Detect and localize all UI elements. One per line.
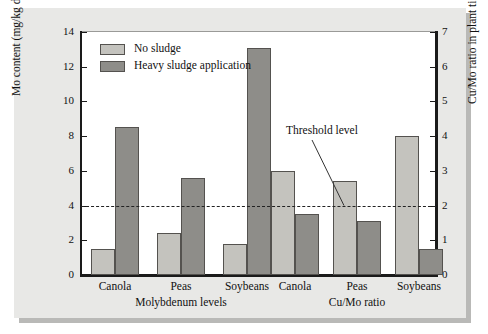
legend-item-heavy-sludge: Heavy sludge application — [100, 59, 251, 72]
left-tick-label: 4 — [50, 200, 74, 211]
left-tick-label: 12 — [50, 61, 74, 72]
legend-label-heavy-sludge: Heavy sludge application — [134, 59, 251, 72]
legend: No sludge Heavy sludge application — [100, 42, 251, 76]
left-tick-label: 0 — [50, 269, 74, 280]
left-tick-label: 8 — [50, 130, 74, 141]
legend-label-no-sludge: No sludge — [134, 42, 181, 55]
legend-swatch-light-icon — [100, 44, 125, 55]
threshold-line — [81, 206, 436, 207]
bar-cu-mo-ratio-canola-no-sludge — [271, 171, 295, 275]
left-tick-label: 10 — [50, 95, 74, 106]
bar-molybdenum-levels-canola-heavy-sludge — [115, 127, 139, 275]
right-tick-label: 6 — [442, 61, 464, 72]
bar-molybdenum-levels-peas-heavy-sludge — [181, 178, 205, 275]
left-tick-label: 2 — [50, 234, 74, 245]
legend-item-no-sludge: No sludge — [100, 42, 251, 55]
bar-molybdenum-levels-canola-no-sludge — [91, 249, 115, 275]
category-label-soybeans: Soybeans — [379, 280, 459, 292]
right-tick-label: 2 — [442, 200, 464, 211]
left-tick-label: 14 — [50, 26, 74, 37]
right-tick-label: 4 — [442, 130, 464, 141]
bar-molybdenum-levels-soybeans-heavy-sludge — [247, 48, 271, 275]
bar-molybdenum-levels-soybeans-no-sludge — [223, 244, 247, 275]
bar-molybdenum-levels-peas-no-sludge — [157, 233, 181, 275]
legend-swatch-dark-icon — [100, 61, 125, 72]
chart-panel: 02468101214 Mo content (mg/kg dry weight… — [14, 8, 466, 318]
left-tick-label: 6 — [50, 165, 74, 176]
left-axis-title: Mo content (mg/kg dry weight) — [10, 0, 22, 96]
group-label-cu-mo-ratio: Cu/Mo ratio — [277, 296, 437, 308]
right-tick-label: 5 — [442, 95, 464, 106]
figure-container: 02468101214 Mo content (mg/kg dry weight… — [0, 0, 488, 334]
right-tick-label: 3 — [442, 165, 464, 176]
bar-cu-mo-ratio-soybeans-heavy-sludge — [419, 249, 443, 275]
threshold-label: Threshold level — [286, 124, 358, 136]
bar-cu-mo-ratio-peas-heavy-sludge — [357, 221, 381, 275]
right-axis-title: Cu/Mo ratio in plant tissue — [466, 0, 478, 104]
right-tick-label: 7 — [442, 26, 464, 37]
right-tick-label: 1 — [442, 234, 464, 245]
right-tick-mark — [430, 275, 435, 276]
bar-cu-mo-ratio-canola-heavy-sludge — [295, 214, 319, 275]
bar-cu-mo-ratio-peas-no-sludge — [333, 181, 357, 275]
group-label-molybdenum-levels: Molybdenum levels — [101, 296, 261, 308]
right-tick-label: 0 — [442, 269, 464, 280]
left-tick-mark — [82, 275, 87, 276]
